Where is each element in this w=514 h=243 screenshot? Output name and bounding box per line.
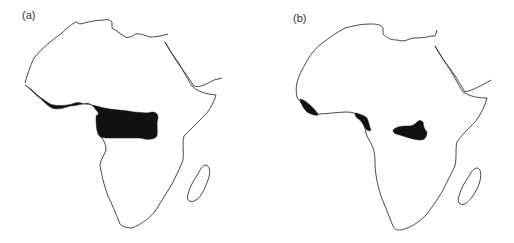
panel-label-a: (a): [22, 9, 35, 21]
shaded-patch-cameroon-coast: [355, 113, 371, 131]
africa-map-b: [257, 0, 514, 243]
shaded-patch-upper-guinea: [300, 99, 318, 115]
africa-outline: [296, 24, 491, 230]
map-panel-b: (b): [257, 0, 514, 243]
map-panel-a: (a): [0, 0, 257, 243]
shaded-range-band: [25, 85, 158, 139]
madagascar-outline: [187, 165, 209, 202]
shaded-patch-central-congo: [393, 121, 427, 141]
madagascar-outline: [458, 168, 480, 205]
africa-map-a: [0, 0, 257, 243]
panel-label-b: (b): [293, 12, 306, 24]
